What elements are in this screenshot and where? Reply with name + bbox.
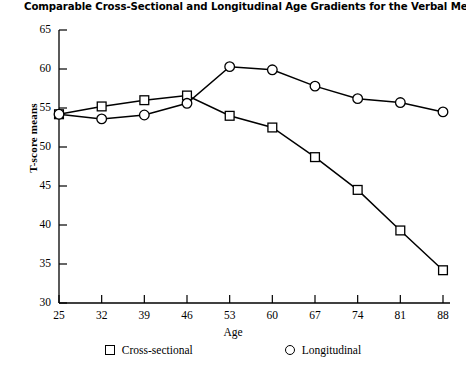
chart-container: Comparable Cross-Sectional and Longitudi… xyxy=(0,0,466,371)
data-point-circle xyxy=(310,81,320,91)
legend-item-longitudinal: Longitudinal xyxy=(285,344,361,356)
data-point-square xyxy=(353,186,362,195)
data-point-circle xyxy=(268,65,278,75)
data-point-circle xyxy=(182,99,192,109)
series-longitudinal xyxy=(54,62,448,124)
data-point-square xyxy=(396,226,405,235)
legend-label-longitudinal: Longitudinal xyxy=(302,344,361,356)
data-point-circle xyxy=(225,62,235,72)
data-point-circle xyxy=(438,107,448,117)
data-point-square xyxy=(140,96,149,105)
data-point-square xyxy=(439,266,448,275)
legend-item-cross-sectional: Cross-sectional xyxy=(105,344,193,356)
data-point-circle xyxy=(353,94,363,104)
data-point-square xyxy=(97,102,106,111)
data-point-circle xyxy=(396,98,406,108)
series-cross-sectional xyxy=(55,91,448,275)
data-point-square xyxy=(311,153,320,162)
legend-label-cross-sectional: Cross-sectional xyxy=(122,344,193,356)
data-point-square xyxy=(225,111,234,120)
data-point-circle xyxy=(140,110,150,120)
data-point-circle xyxy=(54,109,64,119)
plot-area xyxy=(0,0,466,371)
circle-marker-icon xyxy=(285,345,295,355)
data-point-circle xyxy=(97,114,107,124)
chart-legend: Cross-sectional Longitudinal xyxy=(0,344,466,356)
series-line xyxy=(59,96,443,271)
data-point-square xyxy=(268,123,277,132)
square-marker-icon xyxy=(105,345,115,355)
series-line xyxy=(59,67,443,119)
